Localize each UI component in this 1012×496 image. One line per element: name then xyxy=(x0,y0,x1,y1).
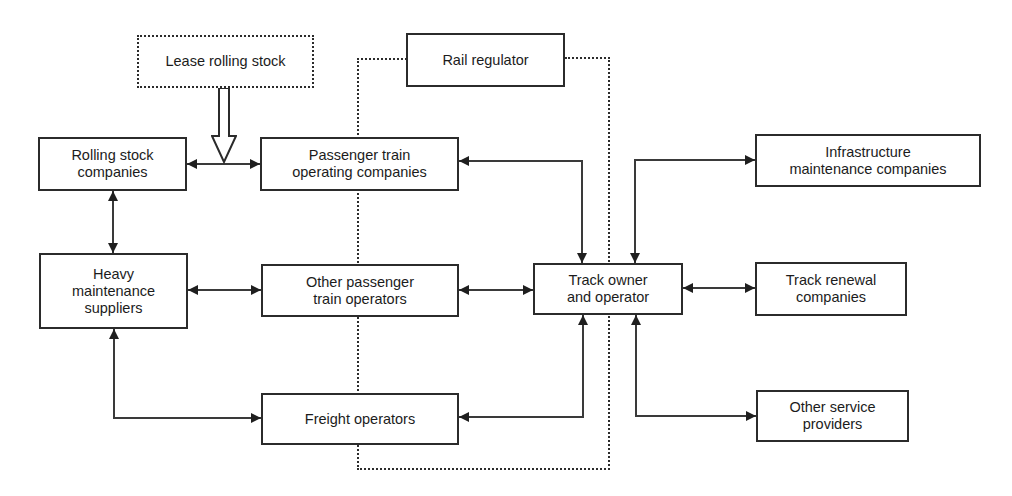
node-lease-rolling-stock: Lease rolling stock xyxy=(137,35,314,88)
arrowhead-into-rolling-stock-companies xyxy=(187,159,197,169)
connector-opto-track-owner xyxy=(459,289,533,291)
arrowhead-into-infrastructure-maintenance-companies xyxy=(745,155,755,165)
node-label: Track owner and operator xyxy=(567,272,649,306)
arrowhead-into-other-passenger-train-operators-right xyxy=(459,285,469,295)
arrowhead-into-ptoc-right xyxy=(459,156,469,166)
arrowhead-into-track-owner-left xyxy=(523,285,533,295)
connector-hms-freight-horizontal xyxy=(113,417,261,419)
node-freight-operators: Freight operators xyxy=(261,393,459,445)
arrowhead-into-rolling-stock-companies-bottom xyxy=(108,191,118,201)
node-label: Other passenger train operators xyxy=(306,274,414,308)
diagram-canvas: Lease rolling stock Rail regulator Rolli… xyxy=(0,0,1012,496)
regulator-dashed-boundary-top-left xyxy=(357,58,407,60)
arrowhead-into-passenger-train-operating-companies xyxy=(250,159,260,169)
arrowhead-into-track-owner-bottom-right xyxy=(631,315,641,325)
connector-track-owner-infra-vertical xyxy=(634,159,636,263)
lease-block-arrow xyxy=(211,87,237,164)
connector-track-owner-osp-vertical xyxy=(635,315,637,416)
node-other-passenger-train-operators: Other passenger train operators xyxy=(261,264,459,317)
node-label: Lease rolling stock xyxy=(165,53,285,70)
arrowhead-into-track-owner-bottom-left xyxy=(578,315,588,325)
arrowhead-into-freight-operators-left xyxy=(251,413,261,423)
node-label: Freight operators xyxy=(305,411,415,428)
node-track-renewal-companies: Track renewal companies xyxy=(755,262,907,316)
node-passenger-train-operating-companies: Passenger train operating companies xyxy=(260,137,459,191)
node-other-service-providers: Other service providers xyxy=(756,390,909,442)
node-track-owner-and-operator: Track owner and operator xyxy=(533,263,683,315)
regulator-dashed-boundary-bottom xyxy=(357,468,610,470)
connector-ptoc-track-owner-vertical xyxy=(581,160,583,263)
node-label: Rolling stock companies xyxy=(71,147,153,181)
regulator-dashed-boundary-top-right xyxy=(565,57,610,59)
node-infrastructure-maintenance-companies: Infrastructure maintenance companies xyxy=(755,134,981,187)
connector-freight-track-owner-horizontal xyxy=(459,416,584,418)
node-label: Rail regulator xyxy=(442,52,528,69)
arrowhead-into-track-owner-top-left xyxy=(577,253,587,263)
node-rail-regulator: Rail regulator xyxy=(406,33,565,87)
arrowhead-into-heavy-maintenance-suppliers-bottom xyxy=(109,329,119,339)
node-label: Other service providers xyxy=(789,399,875,433)
arrowhead-into-other-passenger-train-operators xyxy=(251,285,261,295)
node-label: Track renewal companies xyxy=(786,272,877,306)
arrowhead-into-track-owner-right xyxy=(683,283,693,293)
arrowhead-into-heavy-maintenance-suppliers xyxy=(188,285,198,295)
arrowhead-into-track-renewal-companies xyxy=(745,283,755,293)
node-label: Passenger train operating companies xyxy=(292,147,427,181)
arrowhead-into-track-owner-top-right xyxy=(630,253,640,263)
connector-track-owner-osp-horizontal xyxy=(635,415,756,417)
arrowhead-into-other-service-providers xyxy=(746,411,756,421)
connector-ptoc-track-owner-horizontal xyxy=(459,160,583,162)
node-rolling-stock-companies: Rolling stock companies xyxy=(38,137,187,191)
connector-track-owner-infra-horizontal xyxy=(634,159,755,161)
connector-hms-freight-vertical xyxy=(113,329,115,419)
node-label: Heavy maintenance suppliers xyxy=(72,266,155,317)
arrowhead-into-freight-operators-right xyxy=(459,412,469,422)
connector-freight-track-owner-vertical xyxy=(582,315,584,417)
node-label: Infrastructure maintenance companies xyxy=(789,144,946,178)
node-heavy-maintenance-suppliers: Heavy maintenance suppliers xyxy=(39,253,188,329)
arrowhead-into-heavy-maintenance-suppliers-top xyxy=(108,243,118,253)
